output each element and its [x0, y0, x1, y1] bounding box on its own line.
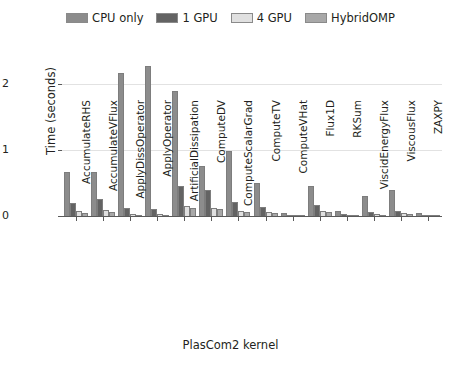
x-axis-title: PlasCom2 kernel — [0, 338, 461, 352]
x-tick-label: ComputeDV — [215, 100, 227, 220]
y-tick-label: 0 — [0, 209, 9, 222]
legend-entry: HybridOMP — [305, 12, 395, 24]
x-tick-mark — [320, 217, 321, 221]
x-tick-mark — [428, 217, 429, 221]
legend-entry: 1 GPU — [156, 12, 217, 24]
x-tick-label: ViscidEnergyFlux — [378, 100, 390, 220]
x-tick-label: ApplyOperator — [161, 100, 173, 220]
x-tick-mark — [347, 217, 348, 221]
x-tick-mark — [266, 217, 267, 221]
x-tick-label: ComputeTV — [270, 100, 282, 220]
legend-label: CPU only — [92, 12, 143, 24]
legend-label: 4 GPU — [257, 12, 292, 24]
x-tick-label: ComputeVHat — [297, 100, 309, 220]
x-tick-mark — [184, 217, 185, 221]
y-tick-mark — [58, 150, 62, 151]
legend-swatch-icon — [231, 13, 253, 23]
x-tick-label: Flux1D — [324, 100, 336, 220]
y-tick-label: 2 — [0, 77, 9, 90]
legend-entry: 4 GPU — [231, 12, 292, 24]
x-tick-label: ComputeScalarGrad — [242, 100, 254, 220]
chart-legend: CPU only1 GPU4 GPUHybridOMP — [0, 12, 461, 24]
legend-swatch-icon — [66, 13, 88, 23]
y-tick-mark — [58, 84, 62, 85]
x-tick-mark — [374, 217, 375, 221]
legend-label: HybridOMP — [331, 12, 395, 24]
x-tick-mark — [157, 217, 158, 221]
y-axis-title: Time (seconds) — [44, 51, 58, 171]
x-tick-mark — [238, 217, 239, 221]
legend-entry: CPU only — [66, 12, 143, 24]
y-tick-label: 1 — [0, 143, 9, 156]
x-tick-mark — [130, 217, 131, 221]
x-tick-mark — [401, 217, 402, 221]
x-tick-label: RKSum — [351, 100, 363, 220]
x-tick-label: ZAXPY — [432, 100, 444, 220]
legend-swatch-icon — [156, 13, 178, 23]
x-tick-label: AccumulateVFlux — [107, 100, 119, 220]
legend-label: 1 GPU — [182, 12, 217, 24]
x-tick-label: AccumulateRHS — [80, 100, 92, 220]
legend-swatch-icon — [305, 13, 327, 23]
y-tick-mark — [58, 216, 62, 217]
chart-figure: CPU only1 GPU4 GPUHybridOMP Time (second… — [0, 0, 461, 371]
x-tick-label: ApplyDissOperator — [134, 100, 146, 220]
x-tick-mark — [76, 217, 77, 221]
x-tick-mark — [103, 217, 104, 221]
x-tick-label: ViscousFlux — [405, 100, 417, 220]
x-tick-mark — [293, 217, 294, 221]
x-tick-mark — [211, 217, 212, 221]
x-tick-label: ArtificialDissipation — [188, 100, 200, 220]
